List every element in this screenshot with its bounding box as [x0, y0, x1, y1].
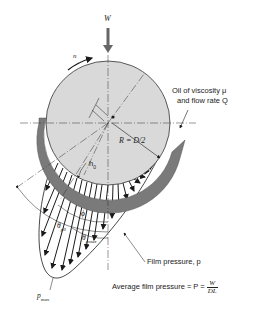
min-film-label: h0	[89, 160, 96, 170]
theta-p0-label: θp0	[57, 222, 66, 232]
average-pressure-label: Average film pressure = P = WDL	[112, 280, 218, 295]
oil-viscosity-label: Oil of viscosity μ	[172, 87, 226, 95]
phi-label: ϕ	[81, 210, 85, 218]
load-label: W	[104, 15, 111, 23]
rotation-label: n	[73, 53, 77, 60]
film-pressure-label: Film pressure, p	[147, 258, 201, 266]
theta-pmax-label: θpmax	[82, 234, 97, 244]
p-max-label: pmax	[37, 292, 49, 302]
radius-label: R = D/2	[119, 137, 145, 145]
bearing-diagram	[0, 0, 254, 309]
oil-flow-label: and flow rate Q	[177, 97, 228, 105]
load-arrow-icon	[103, 28, 113, 53]
